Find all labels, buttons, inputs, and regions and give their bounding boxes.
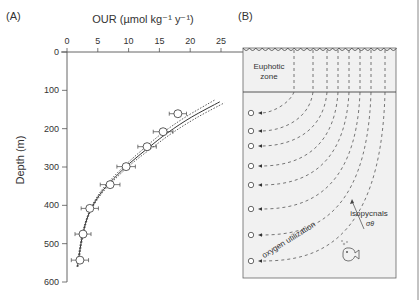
y-tick-label: 400 <box>44 200 59 210</box>
x-tick-label: 15 <box>154 36 164 46</box>
y-tick-label: 300 <box>44 162 59 172</box>
point-marker <box>143 143 151 151</box>
sample-circle <box>248 182 253 187</box>
data-point <box>117 163 135 171</box>
point-marker <box>174 110 182 118</box>
isopycnals-label: isopycnals <box>350 209 387 218</box>
y-tick-label: 200 <box>44 124 59 134</box>
y-tick-label: 500 <box>44 239 59 249</box>
sample-circle <box>248 128 253 133</box>
sample-circle <box>248 206 253 211</box>
sample-circle <box>248 232 253 237</box>
sample-circle <box>248 110 253 115</box>
x-tick-label: 20 <box>185 36 195 46</box>
x-axis-title: OUR (µmol kg⁻¹ y⁻¹) <box>92 13 193 25</box>
fit-curves <box>77 100 224 267</box>
zone-label: zone <box>260 72 278 81</box>
sample-circle <box>248 258 253 263</box>
x-tick-label: 10 <box>124 36 134 46</box>
data-point <box>75 230 91 238</box>
euphotic-label: Euphotic <box>253 62 284 71</box>
y-axis-title: Depth (m) <box>14 136 26 185</box>
point-marker <box>76 256 84 264</box>
point-marker <box>106 181 114 189</box>
sigma-theta-label: σθ <box>366 220 374 227</box>
data-point <box>169 110 186 118</box>
x-tick-label: 25 <box>216 36 226 46</box>
point-marker <box>79 230 87 238</box>
y-tick-label: 0 <box>54 47 59 57</box>
sample-circle <box>248 163 253 168</box>
figure: (A) OUR (µmol kg⁻¹ y⁻¹) Depth (m) 051015… <box>0 0 419 300</box>
data-points <box>71 110 186 264</box>
y-tick-label: 600 <box>44 277 59 287</box>
data-point <box>100 181 120 189</box>
panel-b-label: (B) <box>238 10 253 22</box>
ocean-box <box>243 48 396 278</box>
point-marker <box>159 128 167 136</box>
data-point <box>81 204 98 212</box>
x-tick-label: 5 <box>95 36 100 46</box>
panel-a: (A) OUR (µmol kg⁻¹ y⁻¹) Depth (m) 051015… <box>6 10 244 287</box>
point-marker <box>122 163 130 171</box>
curve-fit <box>77 102 219 267</box>
y-tick-label: 100 <box>44 85 59 95</box>
data-point <box>71 256 88 264</box>
panel-a-label: (A) <box>6 10 21 22</box>
point-marker <box>86 204 94 212</box>
panel-b: (B) Euphotic zone isopycnals σθ oxygen u… <box>238 10 397 278</box>
sample-circle <box>248 143 253 148</box>
axes: 05101520250100200300400500600 <box>44 36 244 287</box>
x-tick-label: 0 <box>64 36 69 46</box>
curve-fit-lower <box>77 100 215 267</box>
